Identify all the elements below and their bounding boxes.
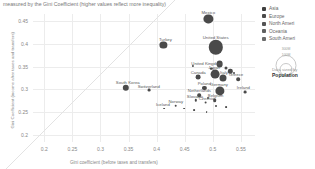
x-axis-tick-label: 0.35 [124,146,134,152]
legend-item-label: North Ameri [269,21,294,26]
data-point[interactable] [196,75,201,80]
data-point[interactable] [195,99,197,101]
y-axis-title: Gini Coefficient (income after taxes and… [10,33,15,129]
gridline-horizontal [33,135,255,136]
data-point-label: Italy [220,70,228,75]
legend-item-oceania[interactable]: Oceania [262,29,295,34]
data-point-label: Iceland [156,102,170,107]
legend-item-south-ameri[interactable]: South Ameri [262,36,295,41]
gridline-horizontal [33,112,255,113]
data-point[interactable] [219,74,226,81]
data-point[interactable] [236,78,240,82]
x-axis-tick-label: 0.4 [153,146,160,152]
gridline-vertical [185,14,186,142]
data-point[interactable] [207,97,209,99]
x-axis-tick-label: 0.3 [97,146,104,152]
gridline-vertical [157,14,158,142]
chart-subtitle: measured by the Gini Coefficient (higher… [3,1,233,8]
data-point-label: Canada [191,70,206,75]
data-point[interactable] [174,105,177,108]
y-axis-tick-label: 0.2 [12,132,28,138]
y-axis-tick-label: 0.45 [12,18,28,24]
size-legend-value: 100M [282,53,290,57]
data-point-label: Mexico [202,10,216,15]
data-point-label: Poland [198,81,211,86]
data-point[interactable] [147,89,150,92]
category-legend: AsiaEuropeNorth AmeriOceaniaSouth Ameri [262,6,295,44]
data-point-label: Norway [168,99,183,104]
x-axis-tick-label: 0.25 [67,146,77,152]
legend-swatch-icon [262,29,266,33]
x-axis-tick-label: 0.2 [41,146,48,152]
legend-item-asia[interactable]: Asia [262,6,295,11]
scatter-plot-area: MexicoUnited StatesTurkeyUnited KingdomJ… [33,14,255,142]
gridline-vertical [129,14,130,142]
data-point[interactable] [204,101,207,104]
gridline-vertical [44,14,45,142]
legend-swatch-icon [262,7,266,11]
legend-swatch-icon [262,37,266,41]
legend-item-north-ameri[interactable]: North Ameri [262,21,295,26]
data-point[interactable] [163,108,165,110]
legend-item-label: Asia [269,6,278,11]
data-point[interactable] [183,108,185,110]
gridline-vertical [100,14,101,142]
data-point-label: Switzerland [138,83,160,88]
data-point-label: United States [203,34,229,39]
gridline-horizontal [33,21,255,22]
data-point[interactable] [215,105,217,107]
size-legend-value: 300M [282,47,290,51]
size-legend-variable: Population [272,72,298,78]
data-point[interactable] [206,111,208,113]
data-point-label: Germany [210,81,228,86]
data-point-label: Ireland [237,84,250,89]
legend-item-europe[interactable]: Europe [262,14,295,19]
legend-item-label: Europe [269,14,284,19]
x-axis-tick-label: 0.5 [209,146,216,152]
legend-item-label: Oceania [269,29,287,34]
data-point[interactable] [225,106,227,108]
x-axis-tick-label: 0.55 [236,146,246,152]
data-point[interactable] [244,90,247,93]
data-point[interactable] [211,69,220,78]
data-point[interactable] [193,110,195,112]
x-axis-tick-label: 0.45 [180,146,190,152]
legend-swatch-icon [262,14,266,18]
gridline-vertical [241,14,242,142]
data-point-label: Belgium [208,93,224,98]
x-axis-title: Gini coefficient (before taxes and trans… [70,160,158,165]
data-point[interactable] [160,41,167,48]
legend-swatch-icon [262,22,266,26]
legend-item-label: South Ameri [269,36,295,41]
data-point-label: Turkey [159,37,172,42]
gridline-vertical [72,14,73,142]
data-point[interactable] [233,72,235,74]
data-point[interactable] [213,98,217,102]
data-point-label: South Korea [116,80,140,85]
data-point[interactable] [208,40,222,54]
